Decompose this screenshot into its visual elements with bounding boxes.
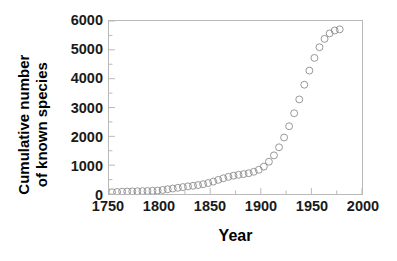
data-point	[276, 144, 283, 151]
x-axis-tick-label: 2000	[347, 199, 379, 214]
data-point	[225, 173, 232, 180]
plot-area	[108, 20, 363, 195]
data-point	[265, 158, 272, 165]
y-axis-tick-label: 5000	[71, 42, 103, 57]
x-axis-tick-label: 1800	[143, 199, 175, 214]
y-axis-title-line-2: of known species	[33, 30, 51, 220]
data-point	[316, 44, 323, 51]
data-point	[286, 123, 293, 130]
data-point	[301, 81, 308, 88]
y-axis-title: Cumulative number of known species	[15, 30, 50, 220]
y-axis-tick-label: 2000	[71, 129, 103, 144]
data-point	[336, 26, 343, 33]
y-axis-title-line-1: Cumulative number	[15, 30, 33, 220]
axis-ticks	[109, 21, 362, 194]
data-point	[291, 110, 298, 117]
x-axis-tick-label: 1900	[245, 199, 277, 214]
data-markers	[109, 26, 343, 194]
x-axis-tick-label: 1850	[194, 199, 226, 214]
y-axis-tick-label: 1000	[71, 159, 103, 174]
x-axis-title: Year	[108, 228, 363, 244]
figure-container: 0100020003000400050006000 Cumulative num…	[0, 0, 397, 261]
data-point	[245, 170, 252, 177]
plot-canvas	[109, 21, 362, 194]
data-point	[296, 96, 303, 103]
data-point	[200, 181, 207, 188]
data-point	[205, 180, 212, 187]
data-point	[321, 35, 328, 42]
data-point	[270, 152, 277, 159]
y-axis-tick-label: 4000	[71, 71, 103, 86]
data-point	[311, 54, 318, 61]
data-point	[281, 134, 288, 141]
y-axis-tick-label: 3000	[71, 100, 103, 115]
y-axis-tick-label: 6000	[71, 13, 103, 28]
x-axis-tick-label: 1950	[296, 199, 328, 214]
data-point	[306, 67, 313, 74]
x-axis-tick-label: 1750	[92, 199, 124, 214]
